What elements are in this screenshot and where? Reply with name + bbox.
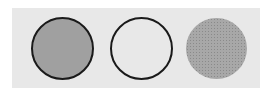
- filled-circle: [31, 17, 94, 80]
- outline-circle: [110, 17, 173, 80]
- dotted-circle: [186, 18, 247, 79]
